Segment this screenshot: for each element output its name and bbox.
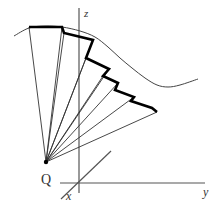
rays-from-q xyxy=(29,27,157,162)
x-axis-label: x xyxy=(65,189,72,203)
diagram-canvas: Q z y x xyxy=(0,0,219,210)
y-axis-label: y xyxy=(202,185,209,199)
ray-line xyxy=(46,83,118,162)
ray-line xyxy=(46,97,134,162)
ray-line xyxy=(46,33,64,162)
point-q-label: Q xyxy=(41,172,51,187)
ray-line xyxy=(29,27,46,162)
point-q-marker xyxy=(44,160,48,164)
z-axis-label: z xyxy=(83,7,89,19)
staircase-approximation xyxy=(29,27,157,112)
